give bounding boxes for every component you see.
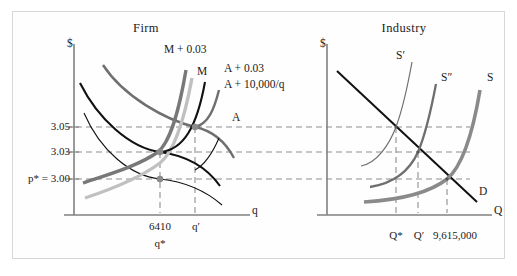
- firm-y-axis-label: $: [67, 38, 73, 50]
- firm-x-axis-label: q: [252, 205, 258, 217]
- curve-label-A-plus-fixed-fee: A + 10,000/q: [224, 79, 284, 91]
- curve-label-M-plus-003: M + 0.03: [164, 44, 207, 56]
- curve-label-A-plus-003: A + 0.03: [224, 63, 264, 75]
- curve-A-plus-fixed-fee: [103, 65, 234, 158]
- industry-dot-Qstar: [394, 125, 397, 128]
- curve-M: [85, 78, 192, 198]
- curve-label-D: D: [479, 186, 487, 198]
- curve-D: [337, 71, 477, 202]
- curve-label-A: A: [232, 112, 240, 124]
- firm-panel-graphics: [64, 44, 470, 215]
- industry-x-tick-Qstar: Q*: [389, 230, 402, 241]
- firm-y-tick-303: 3.03: [51, 146, 70, 157]
- industry-panel-graphics: [317, 44, 492, 215]
- curve-S-double-prime: [370, 84, 436, 187]
- firm-dot-305: [192, 124, 199, 131]
- firm-x-tick-6410: 6410: [149, 221, 171, 232]
- curve-label-S-double-prime: S″: [441, 72, 452, 84]
- industry-y-axis-label: $: [320, 38, 326, 50]
- industry-x-axis-label: Q: [494, 205, 502, 217]
- firm-y-tick-305: 3.05: [51, 121, 70, 132]
- firm-x-tick-qstar: q*: [155, 238, 166, 249]
- firm-y-tick-300: p* = 3.00: [28, 173, 70, 184]
- curve-label-S-prime: S′: [396, 50, 405, 62]
- firm-dot-300: [157, 176, 164, 183]
- curve-label-M: M: [197, 66, 207, 78]
- industry-x-tick-9615000: 9,615,000: [433, 230, 477, 241]
- industry-dot-Qprime: [416, 150, 419, 153]
- economics-figure: Firm $ q 3.05 3.03 p* = 3.00 6410 q* q′ …: [0, 0, 517, 276]
- firm-dot-303: [157, 149, 164, 156]
- firm-panel-title: Firm: [133, 22, 159, 35]
- industry-dot-9615000: [445, 177, 448, 180]
- industry-x-tick-Qprime: Q′: [414, 230, 424, 241]
- curve-S-prime: [361, 62, 412, 166]
- curve-label-S: S: [487, 72, 493, 84]
- industry-panel-title: Industry: [382, 22, 427, 35]
- firm-x-tick-qprime: q′: [192, 221, 200, 232]
